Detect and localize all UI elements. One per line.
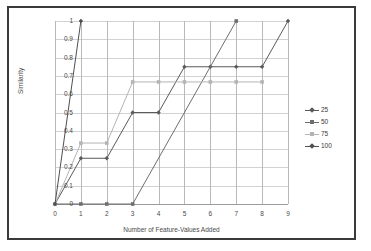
x-tick-label: 8 [250,211,274,218]
data-point [131,80,135,84]
legend-item-75[interactable]: 75 [305,128,353,140]
legend-swatch-diamond-icon [305,107,319,114]
data-point [260,80,264,84]
series-75 [53,80,264,206]
series-line [55,82,262,204]
legend-swatch-diamond-icon [305,143,319,150]
y-tick-label: 0.5 [33,110,73,117]
data-point [156,110,160,114]
y-tick-label: 0.3 [33,146,73,153]
data-point [79,19,83,23]
chart-image: 00.10.20.30.40.50.60.70.80.91 0123456789… [0,0,371,251]
y-tick-label: 0.2 [33,164,73,171]
x-tick-label: 6 [198,211,222,218]
series-layer [55,21,288,204]
data-point [234,65,238,69]
data-point [260,65,264,69]
data-point [79,156,83,160]
data-point [130,110,134,114]
data-point [105,202,109,206]
data-point [234,19,238,23]
y-tick-label: 0.7 [33,73,73,80]
series-25 [53,19,290,206]
legend-swatch-square-icon [305,119,319,126]
legend-item-50[interactable]: 50 [305,116,353,128]
legend-label: 50 [321,119,328,126]
data-point [182,65,186,69]
x-tick-label: 3 [121,211,145,218]
data-point [209,80,213,84]
chart-canvas: 00.10.20.30.40.50.60.70.80.91 0123456789… [9,8,354,238]
y-tick-label: 0.8 [33,55,73,62]
y-tick-label: 0.6 [33,91,73,98]
legend-label: 75 [321,131,328,138]
x-tick-label: 9 [276,211,300,218]
x-tick-label: 5 [172,211,196,218]
y-axis-label: Similarity [17,68,24,94]
data-point [79,202,83,206]
legend-item-25[interactable]: 25 [305,104,353,116]
data-point [234,80,238,84]
legend: 255075100 [305,104,353,152]
data-point [105,141,109,145]
data-point [105,156,109,160]
plot-area [55,21,288,204]
series-line [55,21,288,204]
legend-label: 25 [321,107,328,114]
x-axis-label: Number of Feature-Values Added [55,226,288,233]
data-point [183,80,187,84]
vertical-gridline [288,21,289,204]
legend-label: 100 [321,143,332,150]
x-tick-label: 4 [147,211,171,218]
data-point [286,19,290,23]
y-tick-label: 0 [33,201,73,208]
y-tick-label: 0.4 [33,128,73,135]
data-point [131,202,135,206]
y-tick-label: 1 [33,18,73,25]
x-tick-label: 0 [43,211,67,218]
y-tick-label: 0.1 [33,183,73,190]
x-tick-label: 7 [224,211,248,218]
x-tick-label: 2 [95,211,119,218]
y-tick-label: 0.9 [33,36,73,43]
legend-item-100[interactable]: 100 [305,140,353,152]
x-tick-label: 1 [69,211,93,218]
data-point [79,141,83,145]
data-point [157,80,161,84]
legend-swatch-square-icon [305,131,319,138]
